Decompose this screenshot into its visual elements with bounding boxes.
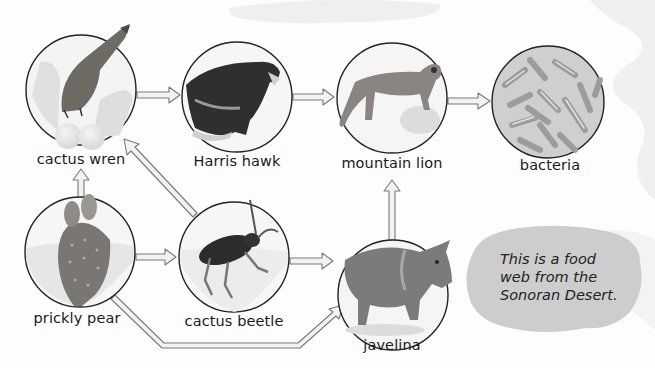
cactus-beetle-image <box>179 200 289 312</box>
caption-line-2: web from the <box>500 268 640 286</box>
node-label-mountain-lion: mountain lion <box>341 155 442 171</box>
node-label-cactus-beetle: cactus beetle <box>185 313 284 329</box>
arrow-pear-to-wren <box>73 169 89 198</box>
prickly-pear-image <box>25 194 135 307</box>
arrow-hawk-to-lion <box>293 89 334 105</box>
node-label-harris-hawk: Harris hawk <box>193 153 280 169</box>
arrow-lion-to-bacteria <box>448 93 490 109</box>
node-label-bacteria: bacteria <box>520 157 580 173</box>
bacteria-image <box>492 46 604 158</box>
food-web-diagram: cactus wren Harris hawk mountain lion ba… <box>0 0 655 368</box>
caption-line-1: This is a food <box>500 250 640 268</box>
harris-hawk-image <box>182 42 292 152</box>
arrow-javelina-to-lion <box>384 180 400 240</box>
caption-text: This is a food web from the Sonoran Dese… <box>500 250 640 304</box>
arrow-wren-to-hawk <box>137 87 180 103</box>
arrow-beetle-to-wren <box>124 139 197 217</box>
caption-line-3: Sonoran Desert. <box>500 286 640 304</box>
javelina-image <box>338 240 452 350</box>
arrow-beetle-to-javelina <box>290 253 333 269</box>
mountain-lion-image <box>337 43 447 153</box>
node-label-javelina: javelina <box>363 337 420 353</box>
arrow-pear-to-beetle <box>136 249 176 265</box>
node-label-cactus-wren: cactus wren <box>37 151 126 167</box>
node-label-prickly-pear: prickly pear <box>34 310 121 326</box>
cactus-wren-image <box>26 24 136 150</box>
